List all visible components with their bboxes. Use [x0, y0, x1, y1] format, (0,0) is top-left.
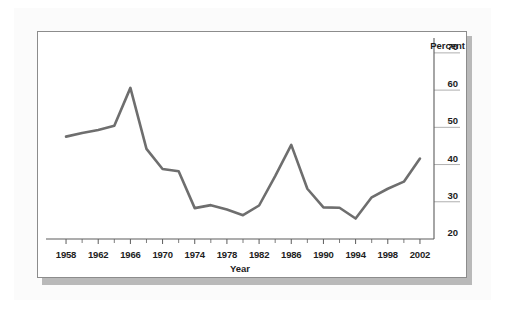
x-tick-label: 2002: [410, 249, 430, 260]
figure-frame: 706050403020 195819621966197019741978198…: [37, 31, 467, 278]
y-axis-rules: [434, 53, 460, 202]
x-tick-label: 1998: [378, 249, 398, 260]
y-tick-label: 30: [447, 190, 458, 201]
y-axis-tick-labels: 706050403020: [447, 41, 458, 238]
x-tick-label: 1970: [152, 249, 172, 260]
x-tick-label: 1978: [217, 249, 237, 260]
line-chart-svg: 706050403020 195819621966197019741978198…: [38, 32, 468, 279]
x-tick-label: 1986: [281, 249, 301, 260]
plot-area: 706050403020 195819621966197019741978198…: [38, 32, 468, 279]
x-axis-tick-labels: 1958196219661970197419781982198619901994…: [56, 249, 430, 260]
y-tick-label: 40: [447, 153, 458, 164]
x-tick-label: 1982: [249, 249, 269, 260]
x-tick-label: 1990: [313, 249, 333, 260]
data-series-line: [66, 88, 420, 219]
x-tick-label: 1994: [345, 249, 366, 260]
chart-screenshot: 706050403020 195819621966197019741978198…: [0, 0, 505, 313]
x-tick-label: 1962: [88, 249, 108, 260]
y-tick-label: 60: [447, 78, 458, 89]
x-tick-label: 1958: [56, 249, 76, 260]
y-tick-label: 50: [447, 115, 458, 126]
x-tick-label: 1974: [185, 249, 206, 260]
y-tick-label: 20: [447, 227, 458, 238]
x-axis-title: Year: [230, 263, 250, 274]
y-axis-unit-label: Percent: [430, 40, 466, 51]
x-tick-label: 1966: [120, 249, 140, 260]
